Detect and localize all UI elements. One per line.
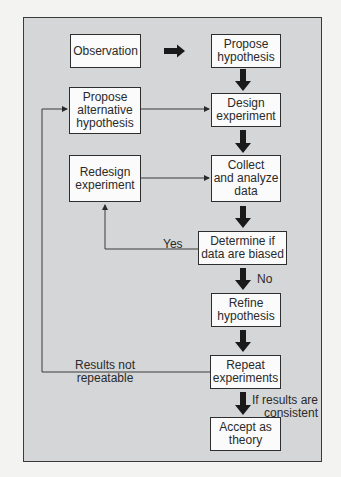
node-repeat-experiments: Repeat experiments [210, 355, 281, 389]
edge-label-no: No [257, 273, 272, 286]
node-refine-hypothesis: Refine hypothesis [211, 293, 281, 327]
edge-label-consistent: If results are consistent [252, 394, 318, 420]
node-determine-biased: Determine if data are biased [198, 231, 287, 265]
node-collect-analyze-data: Collect and analyze data [211, 155, 281, 202]
edge-label-not-repeatable: Results not repeatable [70, 359, 140, 385]
thick-arrow-right-icon [164, 45, 185, 58]
node-accept-theory: Accept as theory [210, 417, 281, 451]
node-design-experiment: Design experiment [211, 93, 281, 127]
node-observation: Observation [70, 34, 141, 68]
edge-label-yes: Yes [163, 238, 183, 251]
node-propose-alternative-hypothesis: Propose alternative hypothesis [69, 87, 141, 134]
node-propose-hypothesis: Propose hypothesis [211, 34, 281, 68]
node-redesign-experiment: Redesign experiment [69, 155, 141, 202]
